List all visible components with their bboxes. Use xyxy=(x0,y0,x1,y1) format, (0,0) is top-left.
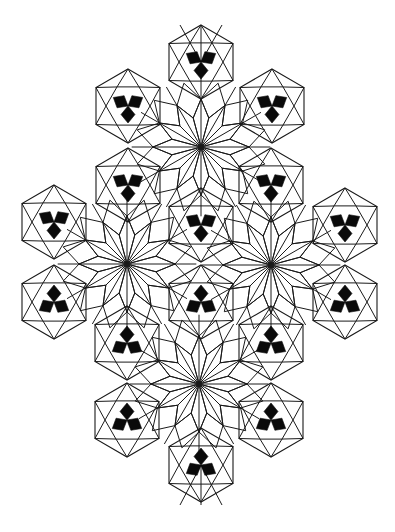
hexagon-spoke xyxy=(139,87,160,88)
hexagon-spoke xyxy=(95,401,116,402)
hexagon-spoke xyxy=(282,324,303,325)
hexagon-spoke xyxy=(356,321,377,322)
hexagon-spoke xyxy=(239,439,260,440)
hexagon-spoke xyxy=(356,283,377,284)
hexagon-spoke xyxy=(356,206,377,207)
hexagon-spoke xyxy=(212,206,233,207)
hexagon-spoke xyxy=(139,204,160,205)
hexagon-spoke xyxy=(96,87,117,88)
hexagon-spoke xyxy=(65,321,86,322)
hexagon-spoke xyxy=(283,87,304,88)
hexagon-spoke xyxy=(212,484,233,485)
hexagon-spoke xyxy=(22,241,43,242)
hexagon-spoke xyxy=(282,439,303,440)
hexagon-spoke xyxy=(239,324,260,325)
hexagon-spoke xyxy=(282,401,303,402)
hexagon-spoke xyxy=(96,166,117,167)
hexagon-spoke xyxy=(169,484,190,485)
hexagon-spoke xyxy=(169,81,190,82)
hexagon-spoke xyxy=(22,321,43,322)
hexagon-spoke xyxy=(169,43,190,44)
hexagon-spoke xyxy=(282,166,303,167)
hexagon-spoke xyxy=(169,321,190,322)
hexagon-spoke xyxy=(212,43,233,44)
hexagon-spoke xyxy=(169,446,190,447)
hexagon-spoke xyxy=(138,401,159,402)
hexagon-spoke xyxy=(138,362,159,363)
hexagon-spoke xyxy=(313,321,334,322)
tiling-svg xyxy=(0,0,395,532)
hexagon-spoke xyxy=(282,362,303,363)
hexagon-spoke xyxy=(95,439,116,440)
tiling-figure xyxy=(0,0,395,532)
hexagon-spoke xyxy=(22,203,43,204)
hexagon-spoke xyxy=(212,283,233,284)
hexagon-spoke xyxy=(283,125,304,126)
hexagon-spoke xyxy=(356,244,377,245)
hexagon-spoke xyxy=(65,203,86,204)
hexagon-spoke xyxy=(139,125,160,126)
hexagon-spoke xyxy=(169,283,190,284)
hexagon-spoke xyxy=(22,283,43,284)
hexagon-spoke xyxy=(239,362,260,363)
hexagon-spoke xyxy=(96,125,117,126)
hexagon-spoke xyxy=(95,362,116,363)
hexagon-spoke xyxy=(138,439,159,440)
hexagon-spoke xyxy=(212,81,233,82)
hexagon-spoke xyxy=(240,87,261,88)
hexagon-spoke xyxy=(313,206,334,207)
hexagon-spoke xyxy=(169,206,190,207)
hexagon-spoke xyxy=(239,401,260,402)
